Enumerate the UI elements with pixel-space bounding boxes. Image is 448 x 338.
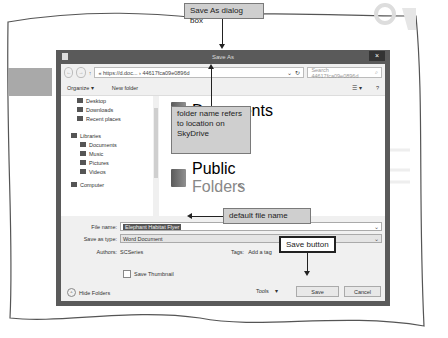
nav-label: Downloads xyxy=(86,107,113,113)
search-icon: ⌕ xyxy=(375,69,378,76)
nav-label: Computer xyxy=(80,182,104,188)
nav-item-recent-places[interactable]: Recent places xyxy=(61,114,159,123)
callout-line xyxy=(211,68,212,106)
address-prefix: « https://d.doc... xyxy=(98,70,137,76)
downloads-icon xyxy=(77,107,83,112)
back-button[interactable]: ← xyxy=(64,67,73,78)
dialog-titlebar: Save As × xyxy=(61,50,385,64)
nav-item-pictures[interactable]: Pictures xyxy=(61,158,159,167)
address-path: « https://d.doc... › 44617fca09e0896d xyxy=(98,70,284,76)
search-placeholder: Search 44617fca09e0896d xyxy=(311,67,375,79)
nav-item-computer[interactable]: Computer xyxy=(61,180,159,189)
file-name-value: Elephant Habitat Flyer xyxy=(123,224,181,230)
callout-default-file-name: default file name xyxy=(223,208,311,224)
address-dropdown-icon[interactable]: ⌄ xyxy=(287,70,292,76)
nav-label: Desktop xyxy=(86,98,106,104)
authors-value[interactable]: SCSeries xyxy=(120,249,143,255)
background-ribbon-band xyxy=(8,68,52,96)
arrow-left-icon xyxy=(187,213,192,219)
address-bar-row: ← → ↑ « https://d.doc... › 44617fca09e08… xyxy=(61,64,385,81)
computer-icon xyxy=(71,182,77,187)
save-thumbnail-checkbox[interactable] xyxy=(123,270,131,278)
save-type-label: Save as type: xyxy=(61,236,120,242)
file-name: Public xyxy=(192,160,245,178)
nav-item-music[interactable]: Music xyxy=(61,149,159,158)
authors-label: Authors: xyxy=(61,249,120,255)
callout-folder-text: folder name refers to location on SkyDri… xyxy=(177,109,242,138)
nav-item-desktop[interactable]: Desktop xyxy=(61,96,159,105)
callout-line xyxy=(307,253,308,272)
nav-item-videos[interactable]: Videos xyxy=(61,167,159,176)
chevron-up-icon[interactable]: ^ xyxy=(67,288,76,297)
chevron-down-icon[interactable]: ⌄ xyxy=(374,236,379,242)
address-separator: › xyxy=(139,70,141,76)
documents-icon xyxy=(80,142,86,147)
nav-label: Libraries xyxy=(80,133,101,139)
address-bar[interactable]: « https://d.doc... › 44617fca09e0896d ⌄ … xyxy=(94,67,304,78)
search-input[interactable]: Search 44617fca09e0896d ⌕ xyxy=(307,67,382,78)
chevron-down-icon[interactable]: ⌄ xyxy=(374,224,379,230)
forward-button[interactable]: → xyxy=(76,67,85,78)
callout-folder-name: folder name refers to location on SkyDri… xyxy=(171,106,251,154)
callout-save-button: Save button xyxy=(279,236,336,253)
tags-value[interactable]: Add a tag xyxy=(248,249,272,255)
cancel-button[interactable]: Cancel xyxy=(344,286,381,297)
navigation-pane: Desktop Downloads Recent places Librarie… xyxy=(61,96,159,216)
nav-label: Recent places xyxy=(86,116,121,122)
desktop-icon xyxy=(77,98,83,103)
save-type-select[interactable]: Word Document ⌄ xyxy=(120,234,382,243)
nav-item-documents[interactable]: Documents xyxy=(61,140,159,149)
hide-folders-button[interactable]: Hide Folders xyxy=(79,290,110,296)
callout-line xyxy=(192,216,223,217)
help-icon[interactable]: ? xyxy=(376,85,379,91)
save-type-value: Word Document xyxy=(123,236,163,242)
callout-line xyxy=(222,19,223,45)
folder-icon xyxy=(171,169,186,187)
pictures-icon xyxy=(80,160,86,165)
recent-places-icon xyxy=(77,116,83,121)
file-name-label: File name: xyxy=(61,224,120,230)
nav-label: Pictures xyxy=(89,160,109,166)
save-as-dialog: Save As × ← → ↑ « https://d.doc... › 446… xyxy=(56,50,390,306)
dialog-title: Save As xyxy=(212,54,234,60)
mouse-pointer-icon: ⇖ xyxy=(237,181,245,191)
tools-button[interactable]: Tools xyxy=(256,288,269,294)
arrow-down-icon xyxy=(219,44,225,49)
nav-scrollbar[interactable] xyxy=(153,96,159,216)
file-item-public[interactable]: Public Folders xyxy=(171,160,245,196)
view-options-button[interactable]: ☰ ▾ xyxy=(352,85,362,91)
nav-item-libraries[interactable]: Libraries xyxy=(61,131,159,140)
dialog-toolbar: Organize ▾ New folder ☰ ▾ ? xyxy=(61,81,385,96)
nav-label: Documents xyxy=(89,142,117,148)
libraries-icon xyxy=(71,133,77,138)
save-button[interactable]: Save xyxy=(296,286,339,297)
callout-save-as-dialog: Save As dialog box xyxy=(184,3,264,19)
scrollbar-thumb[interactable] xyxy=(154,108,158,178)
nav-item-downloads[interactable]: Downloads xyxy=(61,105,159,114)
close-button[interactable]: × xyxy=(369,51,385,61)
organize-button[interactable]: Organize ▾ xyxy=(67,85,94,91)
tools-dropdown-icon[interactable]: ▾ xyxy=(275,288,278,294)
arrow-up-icon xyxy=(208,64,214,69)
up-button[interactable]: ↑ xyxy=(89,70,92,76)
tags-label: Tags: xyxy=(231,249,244,255)
nav-label: Music xyxy=(89,151,103,157)
save-thumbnail-label: Save Thumbnail xyxy=(134,271,174,277)
address-folder[interactable]: 44617fca09e0896d xyxy=(142,70,189,76)
music-icon xyxy=(80,151,86,156)
word-app-icon xyxy=(62,53,68,60)
videos-icon xyxy=(80,169,86,174)
arrow-down-icon xyxy=(304,271,310,276)
new-folder-button[interactable]: New folder xyxy=(112,85,138,91)
nav-label: Videos xyxy=(89,169,106,175)
refresh-icon[interactable]: ↻ xyxy=(295,70,300,76)
